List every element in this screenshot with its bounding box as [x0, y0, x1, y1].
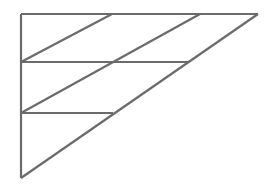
figure-canvas: Top horizontal edgeLeft vertical edgeHyp…: [0, 0, 268, 192]
canvas-background: [0, 0, 268, 192]
line-drawing-svg: Top horizontal edgeLeft vertical edgeHyp…: [0, 0, 268, 192]
